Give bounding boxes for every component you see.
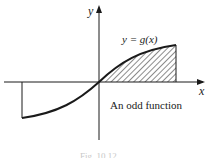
x-axis-label: x bbox=[199, 84, 204, 99]
y-axis-label: y bbox=[88, 4, 93, 19]
odd-function-diagram bbox=[0, 0, 210, 158]
odd-function-annotation: An odd function bbox=[110, 99, 182, 111]
function-label: y = g(x) bbox=[122, 33, 158, 45]
figure-caption: Fig. 10.12 bbox=[80, 151, 117, 158]
y-axis-arrow-icon bbox=[96, 5, 102, 13]
shaded-area bbox=[99, 45, 176, 82]
